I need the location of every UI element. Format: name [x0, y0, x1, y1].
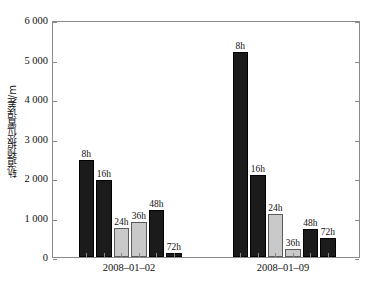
bar-value-label: 8h	[82, 150, 92, 160]
bar-2008–01–09-24h: 24h	[268, 214, 284, 257]
y-axis-tick-mark	[355, 180, 359, 181]
bar-2008–01–02-8h: 8h	[79, 160, 95, 257]
bar-value-label: 16h	[251, 165, 265, 175]
x-axis-category-label: 2008–01–09	[257, 262, 310, 273]
bar-value-label: 72h	[167, 243, 181, 253]
y-axis-tick-mark	[355, 259, 359, 260]
x-axis-tick-mark	[156, 253, 157, 257]
y-axis-tick-label: 2 000	[4, 174, 48, 185]
bar-value-label: 16h	[97, 170, 111, 180]
bar-2008–01–02-48h: 48h	[149, 210, 165, 257]
bar-2008–01–09-16h: 16h	[250, 175, 266, 257]
y-axis-tick-label: 0	[4, 253, 48, 264]
x-axis-tick-mark	[174, 253, 175, 257]
y-axis-tick-mark	[53, 101, 57, 102]
y-axis-tick-mark	[355, 62, 359, 63]
y-axis-tick-mark	[53, 22, 57, 23]
bar-2008–01–02-16h: 16h	[96, 180, 112, 257]
x-axis-tick-mark	[121, 253, 122, 257]
y-axis-tick-mark	[53, 220, 57, 221]
x-axis-tick-mark	[275, 253, 276, 257]
y-axis-tick-mark	[355, 22, 359, 23]
y-axis-tick-label: 4 000	[4, 95, 48, 106]
x-axis-tick-mark	[104, 253, 105, 257]
y-axis-tick-labels: 01 0002 0003 0004 0005 0006 000	[0, 0, 48, 294]
y-axis-tick-mark	[355, 101, 359, 102]
bar-value-label: 48h	[149, 200, 163, 210]
bar-value-label: 8h	[236, 42, 246, 52]
y-axis-tick-mark	[355, 141, 359, 142]
bar-value-label: 36h	[286, 239, 300, 249]
x-axis-tick-mark	[240, 253, 241, 257]
y-axis-tick-label: 1 000	[4, 213, 48, 224]
bar-value-label: 24h	[114, 218, 128, 228]
x-axis-tick-mark	[310, 253, 311, 257]
y-axis-tick-mark	[53, 259, 57, 260]
y-axis-tick-label: 3 000	[4, 134, 48, 145]
bar-value-label: 36h	[132, 212, 146, 222]
y-axis-tick-mark	[53, 141, 57, 142]
bar-value-label: 48h	[303, 219, 317, 229]
x-axis-category-label: 2008–01–02	[103, 262, 156, 273]
bar-chart-figure: 轨道预报位置误差/m 01 0002 0003 0004 0005 0006 0…	[0, 0, 373, 294]
y-axis-tick-mark	[53, 180, 57, 181]
bar-2008–01–02-36h: 36h	[131, 222, 147, 257]
plot-area: 8h16h24h36h48h72h8h16h24h36h48h72h	[52, 21, 360, 258]
x-axis-tick-mark	[258, 253, 259, 257]
x-axis-tick-mark	[86, 253, 87, 257]
bar-value-label: 24h	[268, 204, 282, 214]
bar-value-label: 72h	[321, 228, 335, 238]
y-axis-tick-label: 6 000	[4, 16, 48, 27]
x-axis-tick-mark	[139, 253, 140, 257]
y-axis-tick-mark	[355, 220, 359, 221]
x-axis-tick-mark	[328, 253, 329, 257]
y-axis-tick-mark	[53, 62, 57, 63]
bar-2008–01–09-8h: 8h	[233, 52, 249, 257]
y-axis-tick-label: 5 000	[4, 55, 48, 66]
x-axis-tick-mark	[293, 253, 294, 257]
